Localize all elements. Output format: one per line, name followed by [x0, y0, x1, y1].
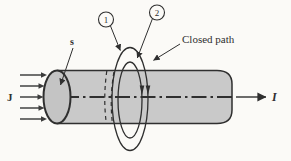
- diagram-canvas: I J s 1: [0, 0, 291, 161]
- callout-1-leader-arrow: [111, 26, 121, 51]
- current-density-arrowhead: [41, 72, 47, 78]
- surface-label: s: [70, 36, 74, 47]
- closed-path-leader-arrow: [154, 44, 181, 60]
- current-label: I: [271, 90, 278, 104]
- current-density-arrowhead: [41, 116, 47, 122]
- callout-2-label: 2: [155, 8, 160, 18]
- conductor-amperian-path-diagram: I J s 1: [0, 0, 291, 161]
- callout-1-label: 1: [104, 15, 109, 25]
- current-density-label: J: [7, 91, 13, 103]
- callout-2-leader-arrow: [137, 19, 152, 59]
- conductor-end-face: [44, 71, 71, 124]
- current-density-arrows: [20, 72, 47, 122]
- closed-path-label: Closed path: [182, 33, 235, 45]
